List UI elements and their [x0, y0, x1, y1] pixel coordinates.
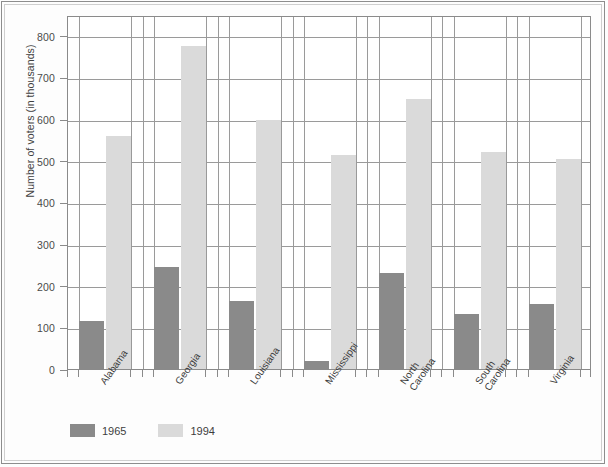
y-axis-tick-mark	[60, 286, 67, 287]
bars-layer	[68, 17, 590, 369]
bar-south-carolina-1994	[481, 152, 506, 369]
y-axis-tick-mark	[60, 245, 67, 246]
y-axis-tick-label: 100	[25, 322, 55, 334]
legend-item: 1994	[158, 424, 214, 437]
y-axis-tick-mark	[60, 370, 67, 371]
y-axis-tick-label: 700	[25, 72, 55, 84]
x-axis-tick-mark	[355, 370, 356, 377]
bar-louisiana-1965	[229, 301, 254, 369]
x-axis-tick-mark	[292, 370, 293, 377]
bar-virginia-1994	[556, 159, 581, 369]
x-axis-tick-mark	[590, 370, 591, 377]
bar-north-carolina-1994	[406, 99, 431, 369]
y-axis-tick-label: 500	[25, 156, 55, 168]
y-axis-tick-label: 600	[25, 114, 55, 126]
plot-area	[67, 16, 591, 370]
y-axis-tick-mark	[60, 120, 67, 121]
bar-mississippi-1965	[304, 361, 329, 369]
legend-label: 1994	[190, 425, 214, 437]
legend: 19651994	[70, 424, 241, 437]
x-axis-tick-mark	[217, 370, 218, 377]
x-axis-tick-mark	[580, 370, 581, 377]
x-axis-tick-mark	[303, 370, 304, 377]
y-axis-tick-mark	[60, 78, 67, 79]
y-axis-tick-mark	[60, 161, 67, 162]
y-axis-tick-label: 800	[25, 31, 55, 43]
y-axis-tick-label: 200	[25, 281, 55, 293]
x-axis-tick-mark	[280, 370, 281, 377]
bar-georgia-1965	[154, 267, 179, 369]
x-axis-tick-mark	[378, 370, 379, 377]
y-axis-tick-mark	[60, 36, 67, 37]
x-axis-tick-mark	[67, 370, 68, 377]
legend-swatch-1965	[70, 424, 95, 437]
x-axis-tick-mark	[153, 370, 154, 377]
bar-north-carolina-1965	[379, 273, 404, 369]
x-axis-tick-mark	[205, 370, 206, 377]
figure-canvas: Number of voters (in thousands) 01002003…	[0, 0, 608, 467]
x-axis-tick-mark	[366, 370, 367, 377]
x-axis-tick-mark	[130, 370, 131, 377]
x-axis-tick-mark	[441, 370, 442, 377]
y-axis-tick-label: 300	[25, 239, 55, 251]
bar-virginia-1965	[529, 304, 554, 369]
y-axis-tick-label: 0	[25, 364, 55, 376]
y-axis-ticks: 0100200300400500600700800	[25, 16, 67, 370]
bar-georgia-1994	[181, 46, 206, 369]
y-axis-tick-mark	[60, 203, 67, 204]
bar-alabama-1994	[106, 136, 131, 369]
x-axis-tick-mark	[78, 370, 79, 377]
x-axis-tick-mark	[142, 370, 143, 377]
x-axis-tick-mark	[453, 370, 454, 377]
y-axis-tick-label: 400	[25, 197, 55, 209]
bar-mississippi-1994	[331, 155, 356, 369]
bar-south-carolina-1965	[454, 314, 479, 369]
x-axis-tick-mark	[528, 370, 529, 377]
x-axis-tick-mark	[516, 370, 517, 377]
y-axis-tick-mark	[60, 328, 67, 329]
legend-item: 1965	[70, 424, 126, 437]
bar-alabama-1965	[79, 321, 104, 369]
legend-swatch-1994	[158, 424, 183, 437]
bar-louisiana-1994	[256, 120, 281, 369]
legend-label: 1965	[102, 425, 126, 437]
x-axis-tick-mark	[228, 370, 229, 377]
